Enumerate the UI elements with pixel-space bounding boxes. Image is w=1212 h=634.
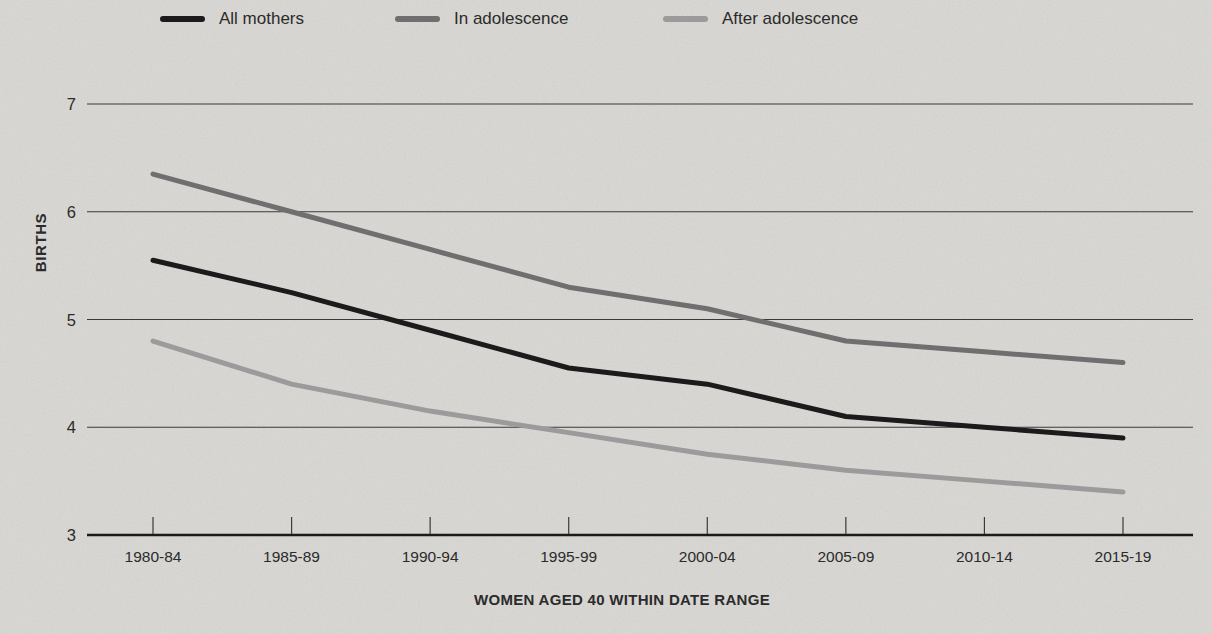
fertility-line-chart: All mothers In adolescence After adolesc… (0, 0, 1212, 634)
y-tick-label: 7 (40, 95, 76, 113)
x-tick-label: 2015-19 (1073, 548, 1173, 566)
series-line-in-adolescence (153, 174, 1123, 363)
y-tick-label: 3 (40, 526, 76, 544)
x-tick-label: 2005-09 (796, 548, 896, 566)
x-tick-label: 1990-94 (380, 548, 480, 566)
x-tick-label: 1995-99 (519, 548, 619, 566)
y-tick-label: 6 (40, 203, 76, 221)
y-tick-label: 4 (40, 418, 76, 436)
y-tick-label: 5 (40, 311, 76, 329)
x-tick-label: 1985-89 (242, 548, 342, 566)
plot-area (0, 0, 1212, 634)
x-tick-label: 2000-04 (657, 548, 757, 566)
series-line-after-adolescence (153, 341, 1123, 492)
x-tick-label: 1980-84 (103, 548, 203, 566)
x-tick-label: 2010-14 (934, 548, 1034, 566)
